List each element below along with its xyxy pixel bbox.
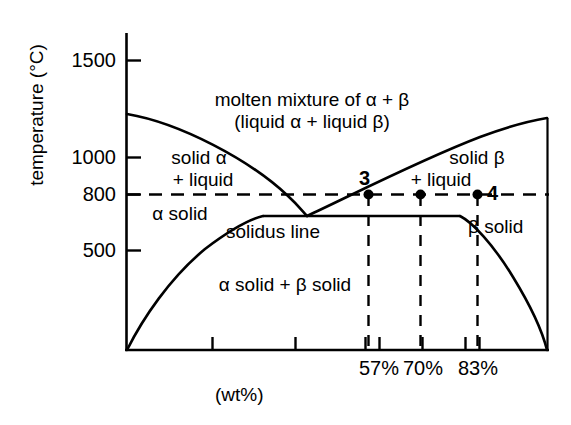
region-label-molten-line2: (liquid α + liquid β) bbox=[192, 111, 432, 132]
region-label-solid-beta: solid β bbox=[422, 147, 532, 168]
y-tick-label-800: 800 bbox=[44, 183, 116, 205]
phase-diagram-figure: temperature (°C) 1500 1000 800 500 57% 7… bbox=[0, 0, 571, 425]
region-label-two-solid: α solid + β solid bbox=[180, 274, 390, 295]
region-label-beta-solid: β solid bbox=[468, 216, 571, 237]
region-label-solidus-line: solidus line bbox=[198, 221, 348, 242]
region-label-alpha-plus-liquid: + liquid bbox=[148, 169, 258, 190]
region-label-molten-line1: molten mixture of α + β bbox=[192, 89, 432, 110]
y-tick-label-500: 500 bbox=[44, 239, 116, 261]
data-point-middle[interactable] bbox=[416, 190, 426, 200]
data-point-3[interactable] bbox=[364, 190, 374, 200]
marker-label-4: 4 bbox=[487, 182, 498, 204]
x-axis-title: (wt%) bbox=[215, 384, 264, 405]
y-tick-label-1000: 1000 bbox=[44, 146, 116, 168]
region-label-beta-plus-liquid: + liquid bbox=[386, 169, 496, 190]
x-tick-label-83: 83% bbox=[443, 357, 513, 379]
region-label-solid-alpha: solid α bbox=[144, 147, 254, 168]
y-tick-label-1500: 1500 bbox=[44, 49, 116, 71]
marker-label-3: 3 bbox=[359, 167, 370, 189]
data-point-4[interactable] bbox=[473, 190, 483, 200]
